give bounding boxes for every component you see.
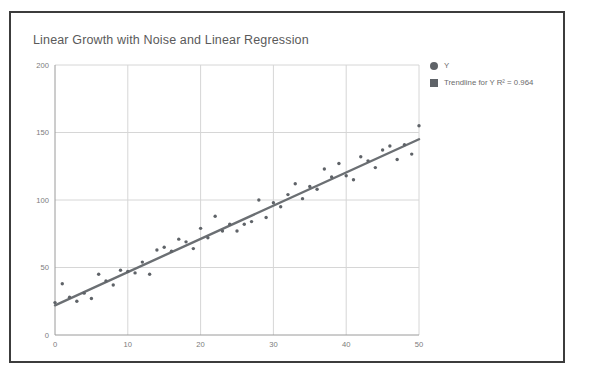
chart-frame: Linear Growth with Noise and Linear Regr… — [9, 11, 565, 363]
svg-text:30: 30 — [269, 340, 277, 349]
legend-item-trendline[interactable]: Trendline for Y R² = 0.964 — [430, 77, 560, 88]
svg-text:200: 200 — [36, 61, 49, 70]
y-axis-tick-labels: 050100150200 — [36, 61, 49, 340]
trendline — [55, 139, 419, 305]
svg-text:0: 0 — [53, 340, 57, 349]
legend-square-marker-icon — [430, 79, 438, 87]
svg-text:50: 50 — [41, 263, 49, 272]
svg-text:100: 100 — [36, 196, 49, 205]
chart-legend: Y Trendline for Y R² = 0.964 — [430, 60, 560, 94]
scatter-points — [53, 124, 420, 304]
legend-label-trendline: Trendline for Y R² = 0.964 — [444, 77, 533, 88]
gridlines — [55, 65, 419, 335]
legend-item-y[interactable]: Y — [430, 60, 560, 71]
x-axis-tick-labels: 01020304050 — [53, 340, 423, 349]
legend-label-y: Y — [444, 60, 449, 71]
svg-text:40: 40 — [342, 340, 350, 349]
svg-text:20: 20 — [196, 340, 204, 349]
svg-text:50: 50 — [415, 340, 423, 349]
svg-text:10: 10 — [124, 340, 132, 349]
svg-text:0: 0 — [45, 331, 49, 340]
svg-text:150: 150 — [36, 128, 49, 137]
legend-circle-marker-icon — [430, 62, 438, 70]
